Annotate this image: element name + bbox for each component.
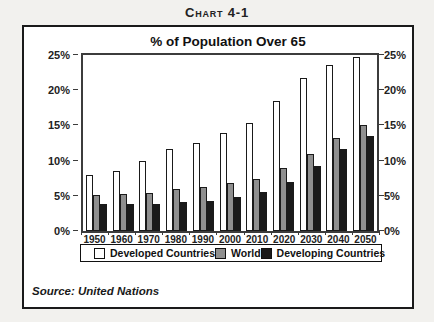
y-tick-mark bbox=[73, 230, 78, 231]
bar-group-2010 bbox=[243, 55, 270, 231]
bar bbox=[113, 171, 120, 231]
legend-label: Developing Countries bbox=[277, 247, 386, 259]
bar bbox=[246, 123, 253, 231]
bar-group-2030 bbox=[297, 55, 324, 231]
legend-item-developed: Developed Countries bbox=[94, 247, 215, 259]
y-tick-label: 0% bbox=[54, 225, 70, 237]
developed-countries-swatch bbox=[94, 248, 105, 259]
legend-label: Developed Countries bbox=[110, 247, 215, 259]
y-axis-right: 0%5%10%15%20%25% bbox=[379, 53, 412, 233]
bar bbox=[360, 125, 367, 231]
y-tick-label: 25% bbox=[384, 49, 406, 61]
y-axis-left: 0%5%10%15%20%25% bbox=[24, 53, 78, 233]
y-tick-label: 0% bbox=[384, 225, 400, 237]
bar bbox=[220, 133, 227, 231]
bar bbox=[307, 154, 314, 231]
bar bbox=[166, 149, 173, 231]
bar bbox=[127, 204, 134, 231]
bar bbox=[193, 143, 200, 231]
bar bbox=[234, 197, 241, 231]
bar-group-1990 bbox=[190, 55, 217, 231]
page-title: Chart 4-1 bbox=[0, 5, 434, 20]
bars-container bbox=[83, 55, 377, 231]
y-tick-label: 20% bbox=[384, 84, 406, 96]
bar bbox=[93, 195, 100, 231]
y-tick-label: 10% bbox=[384, 155, 406, 167]
y-tick-mark bbox=[73, 124, 78, 125]
bar-group-1950 bbox=[83, 55, 110, 231]
y-tick-label: 25% bbox=[48, 49, 70, 61]
chart-frame: % of Population Over 65 0%5%10%15%20%25%… bbox=[22, 25, 414, 309]
legend: Developed Countries World Developing Cou… bbox=[80, 244, 382, 262]
y-tick-mark bbox=[73, 89, 78, 90]
y-tick-mark bbox=[73, 160, 78, 161]
bar bbox=[314, 166, 321, 231]
bar-group-2050 bbox=[350, 55, 377, 231]
bar bbox=[180, 202, 187, 231]
y-tick-mark bbox=[379, 54, 384, 55]
bar bbox=[353, 57, 360, 231]
bar bbox=[367, 136, 374, 231]
bar-group-2000 bbox=[217, 55, 244, 231]
y-tick-label: 15% bbox=[384, 119, 406, 131]
bar-group-1970 bbox=[136, 55, 163, 231]
legend-item-developing: Developing Countries bbox=[261, 247, 386, 259]
bar bbox=[146, 193, 153, 231]
bar bbox=[200, 187, 207, 231]
developing-countries-swatch bbox=[261, 248, 272, 259]
y-tick-mark bbox=[73, 195, 78, 196]
y-tick-label: 20% bbox=[48, 84, 70, 96]
bar bbox=[333, 138, 340, 231]
bar-group-2020 bbox=[270, 55, 297, 231]
y-tick-label: 5% bbox=[54, 190, 70, 202]
legend-label: World bbox=[231, 247, 261, 259]
bar bbox=[173, 189, 180, 231]
x-tick-mark bbox=[379, 231, 380, 235]
bar-group-1960 bbox=[110, 55, 137, 231]
bar bbox=[100, 204, 107, 231]
plot-area bbox=[81, 53, 379, 233]
bar bbox=[340, 149, 347, 231]
y-tick-label: 5% bbox=[384, 190, 400, 202]
chart-title: % of Population Over 65 bbox=[81, 34, 375, 49]
bar bbox=[153, 204, 160, 231]
bar bbox=[287, 182, 294, 231]
bar-group-2040 bbox=[324, 55, 351, 231]
bar bbox=[139, 161, 146, 231]
bar bbox=[280, 168, 287, 231]
bar bbox=[300, 78, 307, 231]
bar bbox=[260, 192, 267, 231]
bar bbox=[86, 175, 93, 231]
y-tick-mark bbox=[73, 54, 78, 55]
bar bbox=[273, 101, 280, 231]
y-tick-mark bbox=[379, 124, 384, 125]
bar bbox=[227, 183, 234, 231]
source-note: Source: United Nations bbox=[32, 285, 159, 297]
legend-item-world: World bbox=[215, 247, 261, 259]
world-swatch bbox=[215, 248, 226, 259]
y-tick-label: 15% bbox=[48, 119, 70, 131]
bar bbox=[120, 194, 127, 231]
y-tick-mark bbox=[379, 160, 384, 161]
y-tick-mark bbox=[379, 195, 384, 196]
y-tick-label: 10% bbox=[48, 155, 70, 167]
bar bbox=[207, 201, 214, 231]
bar bbox=[326, 65, 333, 231]
bar bbox=[253, 179, 260, 231]
y-tick-mark bbox=[379, 89, 384, 90]
bar-group-1980 bbox=[163, 55, 190, 231]
